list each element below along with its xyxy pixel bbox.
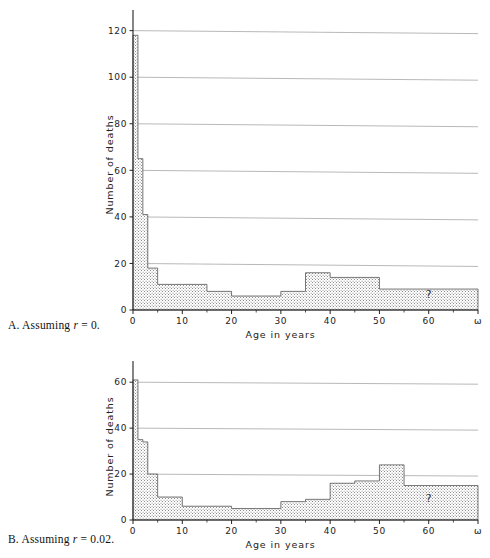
x-tick-label-ω: ω — [474, 316, 482, 326]
y-tick-label-20: 20 — [114, 469, 127, 479]
caption-b-value: = 0.02. — [81, 533, 115, 545]
y-axis-title: Number of deaths — [104, 114, 115, 214]
caption-b-text: Assuming — [21, 533, 69, 545]
caption-panel-a: A. Assuming r = 0. — [8, 319, 100, 331]
caption-b-prefix: B. — [8, 533, 19, 545]
gridline-y-120 — [133, 31, 478, 34]
y-tick-label-100: 100 — [108, 72, 127, 82]
x-tick-label-0: 0 — [130, 316, 136, 326]
gridline-y-40 — [133, 428, 478, 430]
y-tick-label-0: 0 — [121, 515, 127, 525]
gridline-y-100 — [133, 77, 478, 80]
x-tick-label-10: 10 — [176, 526, 189, 536]
x-tick-label-20: 20 — [225, 526, 238, 536]
unknown-marker: ? — [426, 492, 432, 505]
gridline-y-60 — [133, 170, 478, 173]
caption-a-symbol: r — [73, 319, 78, 331]
unknown-marker: ? — [426, 288, 432, 301]
x-tick-label-40: 40 — [324, 316, 337, 326]
panel-a-histogram: 0204060801001200102030405060ωAge in year… — [0, 0, 490, 345]
caption-panel-b: B. Assuming r = 0.02. — [8, 533, 114, 545]
y-tick-label-40: 40 — [114, 212, 127, 222]
x-tick-label-60: 60 — [422, 526, 435, 536]
histogram-chart-a: 0204060801001200102030405060ωAge in year… — [0, 0, 490, 345]
y-tick-label-120: 120 — [108, 26, 127, 36]
x-tick-label-ω: ω — [474, 526, 482, 536]
caption-a-text: Assuming — [22, 319, 70, 331]
x-tick-label-0: 0 — [130, 526, 136, 536]
x-tick-label-40: 40 — [324, 526, 337, 536]
x-tick-label-30: 30 — [275, 316, 288, 326]
x-axis-title: Age in years — [246, 329, 316, 340]
x-tick-label-10: 10 — [176, 316, 189, 326]
x-tick-label-50: 50 — [373, 316, 386, 326]
gridline-y-40 — [133, 217, 478, 220]
x-tick-label-50: 50 — [373, 526, 386, 536]
x-tick-label-20: 20 — [225, 316, 238, 326]
gridline-y-80 — [133, 124, 478, 127]
gridline-y-20 — [133, 263, 478, 266]
y-tick-label-80: 80 — [114, 119, 127, 129]
gridline-y-20 — [133, 474, 478, 476]
histogram-chart-b: 02040600102030405060ωAge in yearsNumber … — [0, 345, 490, 558]
panel-b-histogram: 02040600102030405060ωAge in yearsNumber … — [0, 345, 490, 558]
x-tick-label-30: 30 — [275, 526, 288, 536]
y-tick-label-60: 60 — [114, 166, 127, 176]
x-axis-title: Age in years — [246, 539, 316, 550]
caption-a-prefix: A. — [8, 319, 20, 331]
y-axis-title: Number of deaths — [104, 396, 115, 496]
x-tick-label-60: 60 — [422, 316, 435, 326]
caption-a-value: = 0. — [81, 319, 100, 331]
figure-two-histograms: 0204060801001200102030405060ωAge in year… — [0, 0, 490, 558]
gridline-y-60 — [133, 382, 478, 384]
y-tick-label-40: 40 — [114, 423, 127, 433]
y-tick-label-20: 20 — [114, 259, 127, 269]
y-tick-label-60: 60 — [114, 377, 127, 387]
caption-b-symbol: r — [73, 533, 78, 545]
y-tick-label-0: 0 — [121, 305, 127, 315]
